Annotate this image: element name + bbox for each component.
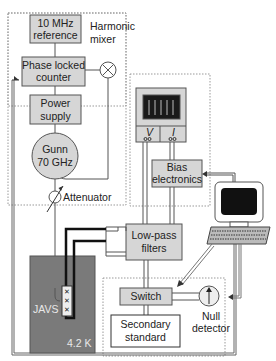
null-arrowhead <box>228 294 233 300</box>
feedback-arrowhead <box>14 76 19 80</box>
secondary-label-2: standard <box>125 331 166 343</box>
reference-label-2: reference <box>33 29 78 41</box>
mixer-label-2: mixer <box>90 33 116 45</box>
counter-label-1: Phase locked <box>22 59 85 71</box>
null-label-1: Null <box>202 310 220 322</box>
switch-arrowhead <box>177 280 184 287</box>
junction-mark-2: ✕ <box>64 297 70 304</box>
javs-temp-label: 4.2 K <box>67 337 92 349</box>
junction-mark-1: ✕ <box>64 288 70 295</box>
power-label-2: supply <box>40 110 71 122</box>
diagram: 10 MHz reference Phase locked counter Ha… <box>0 0 276 361</box>
gunn-label-2: 70 GHz <box>37 156 73 168</box>
secondary-label-1: Secondary <box>120 318 171 330</box>
computer-screen <box>221 188 257 215</box>
filter-input-stubs <box>106 227 126 256</box>
switch-to-secondary-wires <box>144 305 148 315</box>
junction-mark-3: ✕ <box>64 306 70 313</box>
counter-label-2: counter <box>36 71 72 83</box>
filter-to-switch-wires <box>144 260 148 288</box>
attenuator-label: Attenuator <box>63 191 112 203</box>
voltage-terminal-label: V <box>146 126 154 138</box>
bias-arrowhead <box>202 171 207 177</box>
current-terminal-label: I <box>172 126 175 138</box>
gunn-label-1: Gunn <box>42 143 68 155</box>
switch-to-null-wires <box>172 293 199 300</box>
bias-label-2: electronics <box>152 173 202 185</box>
computer-to-switch-line <box>180 244 214 285</box>
filters-label-1: Low-pass <box>132 229 177 241</box>
monitor-stand <box>230 222 248 227</box>
filters-label-2: filters <box>141 242 166 254</box>
null-label-2: detector <box>192 322 230 334</box>
switch-label: Switch <box>131 290 162 302</box>
bias-label-1: Bias <box>167 161 187 173</box>
javs-label: JAVS <box>33 303 58 315</box>
mixer-label-1: Harmonic <box>90 20 135 32</box>
power-label-1: Power <box>41 97 71 109</box>
reference-label-1: 10 MHz <box>37 17 73 29</box>
